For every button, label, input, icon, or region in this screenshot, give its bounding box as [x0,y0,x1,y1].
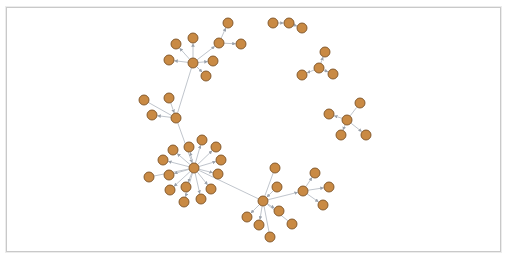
graph-edge [197,67,203,73]
graph-node[interactable] [265,232,275,242]
graph-node[interactable] [216,155,226,165]
graph-edge [321,57,323,63]
graph-edge [168,161,189,166]
graph-edge [178,68,192,113]
graph-node[interactable] [197,135,207,145]
graph-edge [199,162,216,167]
graph-node[interactable] [324,182,334,192]
graph-node[interactable] [188,58,198,68]
graph-node[interactable] [164,93,174,103]
graph-node[interactable] [258,196,268,206]
graph-edge [268,192,298,199]
graph-node[interactable] [213,169,223,179]
graph-edge [221,28,226,38]
graph-edge [308,188,324,190]
graph-node[interactable] [320,47,330,57]
graph-edge [195,173,200,194]
graph-node[interactable] [189,163,199,173]
graph-node[interactable] [254,220,264,230]
graph-edge [224,43,236,44]
graph-edge [195,145,200,163]
graph-node[interactable] [336,130,346,140]
graph-node[interactable] [314,63,324,73]
graph-node[interactable] [242,212,252,222]
graph-edge [343,125,345,130]
graph-node[interactable] [297,23,307,33]
graph-edge [307,194,318,202]
graph-node[interactable] [201,71,211,81]
graph-node[interactable] [168,145,178,155]
graph-node[interactable] [208,56,218,66]
graph-edge [157,116,171,118]
graph-edge [350,107,357,116]
graph-node[interactable] [342,115,352,125]
graph-node[interactable] [268,18,278,28]
graph-edge [307,70,314,73]
graph-node[interactable] [181,182,191,192]
graph-node[interactable] [147,110,157,120]
graph-node[interactable] [328,69,338,79]
graph-node[interactable] [284,18,294,28]
graph-node[interactable] [144,172,154,182]
graph-node[interactable] [214,38,224,48]
graph-node[interactable] [324,109,334,119]
graph-edge [351,123,362,131]
graph-node[interactable] [361,130,371,140]
graph-node[interactable] [270,163,280,173]
graph-node[interactable] [164,170,174,180]
graph-node[interactable] [318,200,328,210]
graph-node[interactable] [274,206,284,216]
graph-node[interactable] [297,70,307,80]
graph-edge [198,62,208,63]
graph-edge [294,25,297,26]
graph-edge [174,61,188,63]
graph-edge [198,151,212,165]
graph-edge [260,206,262,220]
graph-node[interactable] [211,142,221,152]
graph-node[interactable] [223,18,233,28]
graph-edge [251,205,260,214]
graph-edge [171,103,175,113]
graph-node[interactable] [165,185,175,195]
graph-node[interactable] [171,39,181,49]
graph-edge [264,206,269,232]
graph-node[interactable] [310,168,320,178]
graph-edge [180,48,190,59]
graph-edge [306,178,312,187]
graph-edge [324,70,328,72]
graph-node[interactable] [188,33,198,43]
graph-node[interactable] [236,39,246,49]
graph-node[interactable] [184,142,194,152]
graph-edge [334,116,342,119]
graph-edge [177,154,190,165]
graph-node[interactable] [164,55,174,65]
graph-edge [267,191,274,198]
graph-node[interactable] [355,98,365,108]
graph-node[interactable] [179,197,189,207]
graph-node[interactable] [272,182,282,192]
graph-node[interactable] [287,219,297,229]
graph-node[interactable] [171,113,181,123]
graph-node[interactable] [139,95,149,105]
graph-node[interactable] [206,184,216,194]
graph-node[interactable] [196,194,206,204]
graph-node[interactable] [298,186,308,196]
graph-node[interactable] [158,155,168,165]
network-graph[interactable] [0,0,506,257]
